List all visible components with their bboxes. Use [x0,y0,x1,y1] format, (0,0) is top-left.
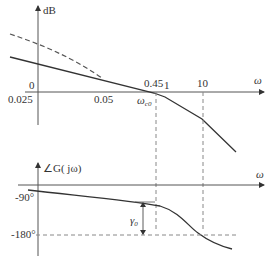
zero-label: 0 [29,79,35,91]
tick-1: 1 [164,79,170,91]
phase-axes [18,163,264,256]
tick-10: 10 [197,77,209,89]
tick-minus180: -180° [11,228,36,240]
phase-axis-label: ∠G( jω) [43,162,82,175]
db-label: dB [43,4,56,16]
magnitude-solid-curve [10,57,236,152]
tick-0025: 0.025 [8,93,33,105]
crossover-label: ωc0 [137,94,152,108]
magnitude-dashed-curve [10,34,102,78]
bode-diagram: dB 0 0.025 0.05 0.45 1 10 ω ωc0 ∠G( jω) … [0,0,270,268]
tick-minus90: -90° [15,191,34,203]
margin-label: γ0 [130,214,138,228]
omega-label-bottom: ω [256,168,264,180]
tick-045: 0.45 [144,77,164,89]
omega-label-top: ω [254,74,262,86]
tick-005: 0.05 [94,93,114,105]
